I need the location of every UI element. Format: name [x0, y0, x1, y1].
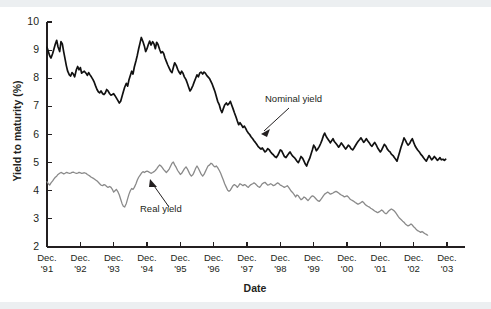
data-series [47, 37, 446, 235]
x-axis-title: Date [175, 282, 335, 294]
bottom-border-band [0, 302, 491, 309]
x-tick-label-line1: Dec. [71, 252, 91, 263]
real-yield-line [47, 162, 428, 235]
real-yield-annotation-label: Real yield [140, 203, 182, 214]
x-tick-label-line1: Dec. [204, 252, 224, 263]
y-axis-title: Yield to maturity (%) [11, 56, 23, 206]
x-tick-label-line1: Dec. [337, 252, 357, 263]
x-tick-label-line1: Dec. [104, 252, 124, 263]
x-tick-label-line1: Dec. [37, 252, 57, 263]
x-tick-label: Dec.'03 [427, 252, 467, 274]
chart-screenshot: 1098765432 Dec.'91Dec.'92Dec.'93Dec.'94D… [0, 0, 491, 309]
x-tick-label-line1: Dec. [371, 252, 391, 263]
x-tick-label-line1: Dec. [171, 252, 191, 263]
x-tick-label-line1: Dec. [437, 252, 457, 263]
top-border-band [0, 0, 491, 7]
x-tick-label-line1: Dec. [271, 252, 291, 263]
y-tick-label: 10 [13, 16, 39, 27]
y-tick-label: 2 [13, 241, 39, 252]
x-tick-label-line1: Dec. [137, 252, 157, 263]
y-tick-label: 9 [13, 44, 39, 55]
x-tick-label-line1: Dec. [237, 252, 257, 263]
figure-panel: 1098765432 Dec.'91Dec.'92Dec.'93Dec.'94D… [0, 7, 491, 302]
x-tick-label-line1: Dec. [304, 252, 324, 263]
x-tick-marks [47, 242, 447, 247]
real-yield-arrow-head [149, 179, 157, 187]
nominal-yield-annotation-label: Nominal yield [265, 93, 322, 104]
x-tick-label-line1: Dec. [404, 252, 424, 263]
nominal-yield-line [47, 37, 446, 166]
y-tick-label: 3 [13, 213, 39, 224]
annotation-arrows [149, 108, 289, 207]
x-tick-label-line2: '03 [427, 263, 467, 274]
axes [47, 22, 465, 247]
nominal-yield-arrow-shaft [264, 108, 289, 131]
